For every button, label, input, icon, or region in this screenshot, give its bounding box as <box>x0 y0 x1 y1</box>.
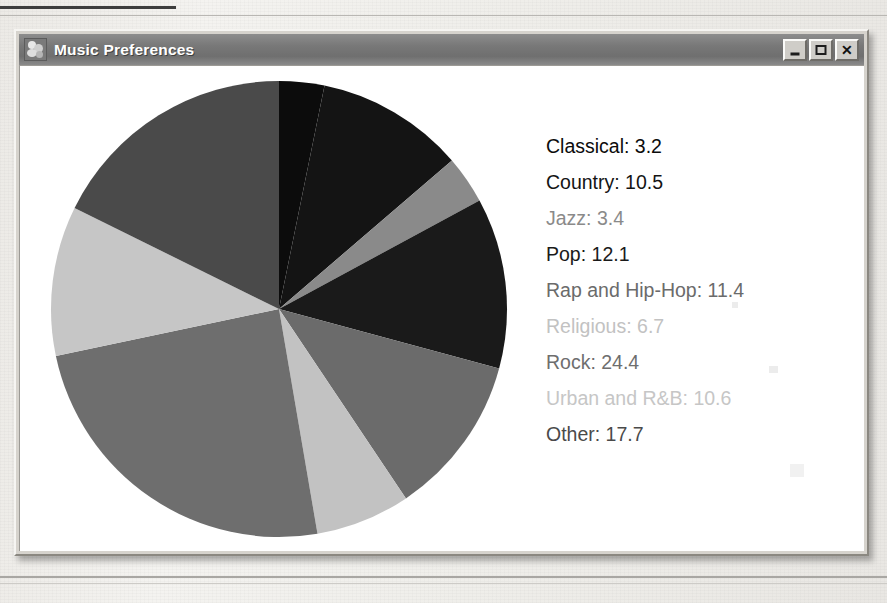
window-title: Music Preferences <box>54 41 783 59</box>
chart-legend: Classical: 3.2Country: 10.5Jazz: 3.4Pop:… <box>540 66 864 551</box>
maximize-button[interactable] <box>809 39 833 61</box>
application-window: Music Preferences ✕ Classical: 3.2Countr… <box>14 29 869 556</box>
legend-entry: Classical: 3.2 <box>546 128 864 164</box>
minimize-button[interactable] <box>783 39 807 61</box>
minimize-icon <box>791 52 800 55</box>
scan-edge-band <box>0 576 887 578</box>
close-icon: ✕ <box>841 44 853 56</box>
scan-edge-band-lower <box>0 583 887 584</box>
window-controls: ✕ <box>783 39 861 61</box>
window-content-pane: Classical: 3.2Country: 10.5Jazz: 3.4Pop:… <box>19 65 864 551</box>
window-title-bar[interactable]: Music Preferences ✕ <box>19 34 864 65</box>
legend-entry: Religious: 6.7 <box>546 308 864 344</box>
legend-entry: Country: 10.5 <box>546 164 864 200</box>
page-rule-top-left <box>0 6 176 9</box>
pie-chart <box>44 74 514 544</box>
legend-entry: Urban and R&B: 10.6 <box>546 380 864 416</box>
page-rule-top-line <box>0 15 887 16</box>
pie-chart-area <box>20 66 540 551</box>
legend-entry: Jazz: 3.4 <box>546 200 864 236</box>
maximize-icon <box>816 45 827 55</box>
legend-entry: Rap and Hip-Hop: 11.4 <box>546 272 864 308</box>
legend-entry: Other: 17.7 <box>546 416 864 452</box>
app-music-icon <box>24 38 47 61</box>
legend-entry: Pop: 12.1 <box>546 236 864 272</box>
close-button[interactable]: ✕ <box>835 39 859 61</box>
legend-entry: Rock: 24.4 <box>546 344 864 380</box>
